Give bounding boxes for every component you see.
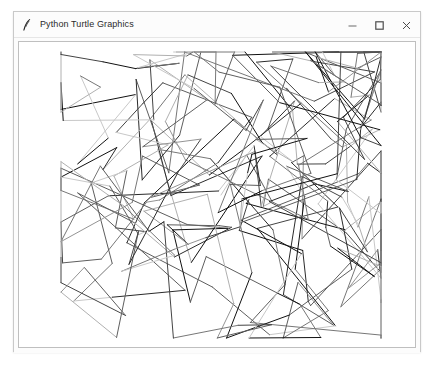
screenshot-root: Python Turtle Graphics bbox=[0, 0, 434, 374]
canvas-area bbox=[14, 38, 420, 353]
turtle-canvas-frame bbox=[18, 41, 416, 348]
minimize-button[interactable] bbox=[339, 12, 366, 38]
window-titlebar[interactable]: Python Turtle Graphics bbox=[14, 12, 420, 38]
turtle-drawing-canvas[interactable] bbox=[19, 42, 415, 347]
window-title: Python Turtle Graphics bbox=[40, 20, 134, 29]
python-turtle-feather-icon bbox=[21, 18, 34, 32]
maximize-button[interactable] bbox=[366, 12, 393, 38]
window-controls bbox=[339, 12, 420, 38]
close-button[interactable] bbox=[393, 12, 420, 38]
turtle-graphics-window: Python Turtle Graphics bbox=[13, 11, 421, 352]
